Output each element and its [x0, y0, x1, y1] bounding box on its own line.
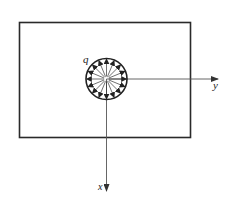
x-axis-label: x	[97, 181, 103, 192]
y-axis-label: y	[212, 79, 218, 91]
plate-rectangle	[20, 23, 191, 138]
load-label-q: q	[83, 53, 89, 65]
plate-with-hole-diagram: q y x	[0, 0, 235, 205]
